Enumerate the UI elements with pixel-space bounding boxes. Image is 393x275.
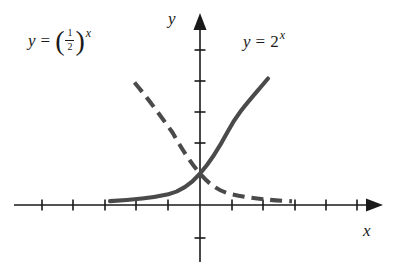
decay-function-label: y = ( 1 2 ) x	[28, 28, 90, 52]
y-axis-label: y	[168, 10, 176, 27]
decay-label-lhs: y	[28, 32, 36, 49]
x-axis-label: x	[363, 222, 371, 239]
growth-label-exponent: x	[280, 29, 285, 41]
growth-function-label: y = 2 x	[243, 33, 284, 50]
y-axis-arrowhead	[194, 13, 207, 30]
decay-fraction-numerator: 1	[65, 28, 74, 39]
curve-exponential-decay	[135, 83, 293, 202]
growth-label-base: 2	[270, 33, 279, 50]
decay-label-paren-open: (	[55, 30, 64, 52]
growth-label-equals: =	[256, 33, 266, 50]
decay-label-paren-close: )	[75, 30, 84, 52]
exponential-functions-figure: y = ( 1 2 ) x y = 2 x y x	[0, 0, 393, 275]
decay-label-exponent: x	[86, 27, 91, 39]
decay-fraction-denominator: 2	[65, 42, 74, 53]
x-axis-arrowhead	[366, 199, 383, 212]
decay-label-fraction: 1 2	[65, 28, 74, 52]
growth-label-lhs: y	[243, 33, 251, 50]
curve-exponential-growth	[110, 79, 268, 202]
decay-label-equals: =	[41, 32, 51, 49]
